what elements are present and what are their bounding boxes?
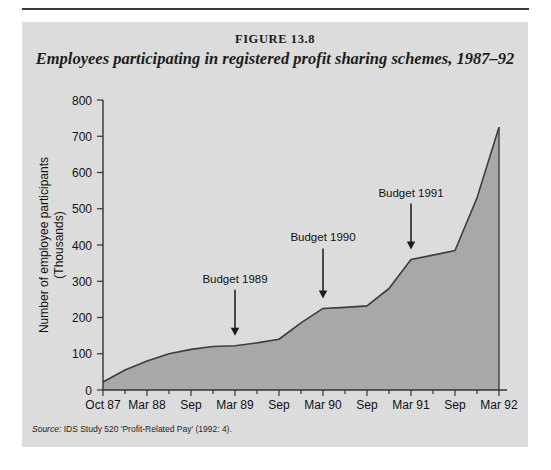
top-divider-rule — [22, 8, 529, 10]
y-tick-label: 600 — [72, 166, 92, 180]
chart-plot-area: 0100200300400500600700800Oct 87Mar 88Sep… — [22, 22, 528, 447]
x-tick-label: Sep — [268, 398, 290, 412]
y-tick-label: 0 — [85, 384, 92, 398]
x-tick-label: Mar 89 — [216, 398, 254, 412]
annotation-1: Budget 1989 — [202, 273, 267, 336]
y-tick-label: 200 — [72, 311, 92, 325]
annotation-arrow-head-icon — [407, 242, 415, 250]
annotation-3: Budget 1991 — [378, 187, 443, 250]
annotation-label: Budget 1991 — [378, 187, 443, 199]
y-tick-label: 300 — [72, 275, 92, 289]
annotation-2: Budget 1990 — [290, 231, 355, 298]
y-axis-title-line: (Thousands) — [52, 211, 66, 278]
area-chart: 0100200300400500600700800Oct 87Mar 88Sep… — [22, 22, 528, 447]
x-tick-label: Oct 87 — [85, 398, 121, 412]
x-tick-label: Mar 92 — [480, 398, 518, 412]
annotation-arrow-head-icon — [319, 290, 327, 298]
source-label: Source: — [32, 424, 61, 434]
x-tick-label: Sep — [444, 398, 466, 412]
y-tick-label: 700 — [72, 130, 92, 144]
y-tick-label: 100 — [72, 347, 92, 361]
x-tick-label: Mar 88 — [128, 398, 166, 412]
source-text: IDS Study 520 'Profit-Related Pay' (1992… — [61, 424, 232, 434]
annotation-label: Budget 1990 — [290, 231, 355, 243]
y-tick-label: 500 — [72, 202, 92, 216]
x-tick-label: Sep — [356, 398, 378, 412]
figure-page: FIGURE 13.8 Employees participating in r… — [0, 0, 551, 470]
annotation-arrow-head-icon — [231, 328, 239, 336]
data-area-fill — [103, 127, 499, 390]
y-axis-title: Number of employee participants(Thousand… — [37, 157, 66, 333]
source-note: Source: IDS Study 520 'Profit-Related Pa… — [32, 424, 232, 434]
figure-panel: FIGURE 13.8 Employees participating in r… — [22, 22, 528, 447]
x-tick-label: Sep — [180, 398, 202, 412]
y-tick-label: 800 — [72, 94, 92, 108]
x-tick-label: Mar 91 — [392, 398, 430, 412]
y-tick-label: 400 — [72, 239, 92, 253]
x-tick-label: Mar 90 — [304, 398, 342, 412]
annotation-label: Budget 1989 — [202, 273, 267, 285]
y-axis-title-line: Number of employee participants — [37, 157, 51, 333]
